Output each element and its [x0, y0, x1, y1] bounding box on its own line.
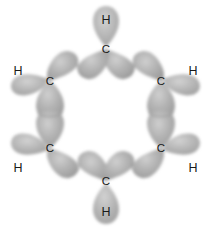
atom-label-c-lower-right: C — [157, 142, 165, 154]
sigma-bond-cc-lobe-pair — [47, 49, 109, 81]
sigma-bond-cc-lobe-pair — [47, 148, 109, 181]
benzene-sigma-framework-figure: C C C C C C H H H H H H — [0, 0, 211, 230]
atom-label-h-lower-left: H — [13, 162, 22, 174]
sigma-bond-cc-lobe-pair — [147, 81, 175, 148]
atom-label-c-lower-left: C — [46, 142, 54, 154]
atom-label-c-upper-right: C — [157, 75, 165, 87]
atom-label-h-lower-right: H — [188, 162, 197, 174]
atom-label-h-bottom: H — [101, 206, 110, 218]
sigma-bond-cc-lobe-pair — [36, 81, 64, 148]
orbital-lobe-group — [11, 6, 200, 224]
atom-label-h-upper-right: H — [188, 65, 197, 77]
atom-label-h-top: H — [101, 14, 110, 26]
orbital-diagram-canvas — [0, 0, 211, 230]
atom-label-c-upper-left: C — [46, 75, 54, 87]
sigma-bond-cc-lobe-pair — [103, 148, 164, 181]
atom-label-c-bottom: C — [102, 175, 110, 187]
atom-label-h-upper-left: H — [13, 65, 22, 77]
atom-label-c-top: C — [102, 43, 110, 55]
sigma-bond-cc-lobe-pair — [103, 49, 164, 81]
